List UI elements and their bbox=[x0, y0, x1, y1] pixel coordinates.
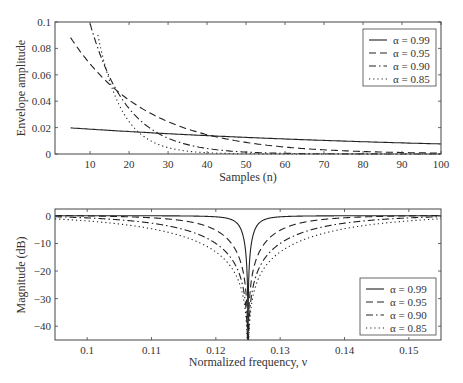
x-tick-label: 0.11 bbox=[142, 344, 161, 356]
legend-label: α = 0.90 bbox=[390, 309, 427, 321]
legend-label: α = 0.90 bbox=[393, 60, 430, 72]
top-plot-legend: α = 0.99α = 0.95α = 0.90α = 0.85 bbox=[363, 29, 436, 86]
x-tick-label: 80 bbox=[358, 158, 370, 170]
figure: 102030405060708090100 00.020.040.060.080… bbox=[0, 0, 463, 383]
bottom-plot-legend: α = 0.99α = 0.95α = 0.90α = 0.85 bbox=[360, 278, 436, 335]
x-tick-label: 0.1 bbox=[80, 344, 94, 356]
y-tick-label: 0.1 bbox=[37, 16, 51, 28]
x-tick-label: 90 bbox=[397, 158, 409, 170]
top-plot-ylabel: Envelope amplitude bbox=[14, 40, 28, 136]
y-tick-label: −20 bbox=[34, 265, 52, 277]
bottom-plot-ylabel: Magnitude (dB) bbox=[14, 237, 28, 314]
x-tick-label: 40 bbox=[202, 158, 214, 170]
legend-label: α = 0.95 bbox=[390, 296, 427, 308]
y-tick-label: 0.04 bbox=[32, 95, 52, 107]
legend-label: α = 0.85 bbox=[390, 322, 427, 334]
top-plot: 102030405060708090100 00.020.040.060.080… bbox=[14, 16, 450, 184]
x-tick-label: 20 bbox=[124, 158, 136, 170]
top-plot-xlabel: Samples (n) bbox=[219, 170, 277, 184]
x-tick-label: 0.15 bbox=[399, 344, 419, 356]
y-tick-label: −10 bbox=[34, 237, 52, 249]
x-tick-label: 0.14 bbox=[335, 344, 355, 356]
x-tick-label: 70 bbox=[319, 158, 331, 170]
legend-label: α = 0.85 bbox=[393, 73, 430, 85]
legend-label: α = 0.95 bbox=[393, 47, 430, 59]
bottom-plot: 0.10.110.120.130.140.15 0−10−20−30−40 No… bbox=[14, 209, 441, 381]
y-tick-label: 0 bbox=[46, 148, 52, 160]
y-tick-label: 0 bbox=[46, 210, 52, 222]
legend-label: α = 0.99 bbox=[390, 283, 427, 295]
y-tick-label: −40 bbox=[34, 320, 52, 332]
series-line bbox=[71, 128, 441, 144]
y-tick-label: 0.06 bbox=[32, 69, 52, 81]
y-tick-label: −30 bbox=[34, 293, 52, 305]
bottom-plot-xlabel: Normalized frequency, ν bbox=[189, 355, 308, 369]
x-tick-label: 10 bbox=[85, 158, 97, 170]
legend-label: α = 0.99 bbox=[393, 34, 430, 46]
x-tick-label: 30 bbox=[163, 158, 175, 170]
x-tick-label: 60 bbox=[280, 158, 292, 170]
x-tick-label: 50 bbox=[241, 158, 253, 170]
y-tick-label: 0.02 bbox=[32, 122, 51, 134]
x-tick-label: 100 bbox=[433, 158, 450, 170]
y-tick-label: 0.08 bbox=[32, 42, 52, 54]
